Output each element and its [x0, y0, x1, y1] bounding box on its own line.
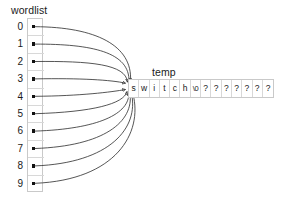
temp-cell-12[interactable]: ? [253, 80, 263, 97]
temp-cell-7[interactable]: ? [201, 80, 211, 97]
pointer-arrows [0, 0, 283, 206]
temp-cell-6[interactable]: \0 [191, 80, 201, 97]
temp-cell-3[interactable]: t [160, 80, 170, 97]
temp-cell-0[interactable]: s [129, 80, 139, 97]
arrow-from-4 [35, 90, 126, 97]
temp-cell-1[interactable]: w [139, 80, 149, 97]
pointer-diagram: wordlist temp 0 1 2 3 4 5 6 7 8 9 [0, 0, 283, 206]
temp-array: s w i t c h \0 ? ? ? ? ? ? ? [128, 79, 274, 98]
temp-cell-8[interactable]: ? [211, 80, 221, 97]
temp-cell-13[interactable]: ? [263, 80, 273, 97]
temp-cell-2[interactable]: i [150, 80, 160, 97]
temp-cell-5[interactable]: h [180, 80, 190, 97]
arrow-from-6 [35, 93, 129, 132]
temp-cell-11[interactable]: ? [242, 80, 252, 97]
temp-cell-9[interactable]: ? [222, 80, 232, 97]
temp-cell-10[interactable]: ? [232, 80, 242, 97]
arrow-from-8 [35, 94, 133, 166]
arrow-from-0 [35, 27, 131, 82]
arrow-from-9 [35, 94, 135, 183]
temp-cell-4[interactable]: c [170, 80, 180, 97]
arrow-from-3 [35, 79, 126, 84]
